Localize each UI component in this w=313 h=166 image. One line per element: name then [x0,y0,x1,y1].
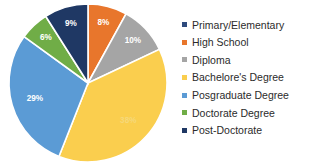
pie-plot-area: 8%10%38%29%6%9% [0,0,176,166]
legend-swatch-icon [182,128,187,133]
legend-swatch-icon [182,57,187,62]
pie-chart-figure: 8%10%38%29%6%9% Primary/Elementary High … [0,0,313,166]
legend-item-label: Primary/Elementary [192,20,284,31]
legend-item-label: Diploma [192,55,231,66]
legend-item-label: Post-Doctorate [192,125,262,136]
legend-item[interactable]: Post-Doctorate [182,122,313,140]
legend-swatch-icon [182,75,187,80]
legend-item-label: Bachelore's Degree [192,72,284,83]
legend-item-label: Doctorate Degree [192,108,275,119]
legend-swatch-icon [182,93,187,98]
legend-item[interactable]: Doctorate Degree [182,104,313,122]
pie-slice-label: 8% [97,18,110,27]
legend-swatch-icon [182,110,187,115]
chart-legend: Primary/Elementary High School Diploma B… [176,0,313,166]
legend-swatch-icon [182,40,187,45]
pie-slice-label: 38% [120,116,137,125]
pie-slice-label: 29% [27,94,44,103]
legend-item[interactable]: Posgraduate Degree [182,86,313,104]
legend-item-label: Posgraduate Degree [192,90,289,101]
pie-svg: 8%10%38%29%6%9% [0,0,176,166]
legend-item-label: High School [192,37,249,48]
legend-item[interactable]: High School [182,34,313,52]
legend-item[interactable]: Diploma [182,51,313,69]
pie-slice-label: 9% [65,19,78,28]
legend-item[interactable]: Primary/Elementary [182,16,313,34]
legend-item[interactable]: Bachelore's Degree [182,69,313,87]
pie-slice-label: 10% [125,36,142,45]
pie-slice-group [9,4,167,162]
legend-swatch-icon [182,22,187,27]
pie-slice-label: 6% [40,33,53,42]
